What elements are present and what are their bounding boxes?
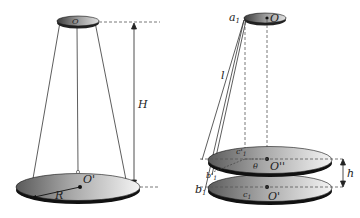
top-disk-center-label: O: [72, 17, 79, 26]
upper-disk: O'' c'1 θ: [208, 147, 332, 178]
right-top-disk: O: [244, 12, 286, 26]
left-figure: O H O' R: [16, 16, 160, 204]
height-label: H: [137, 98, 148, 111]
angle-theta-label: θ: [253, 162, 258, 171]
bottom-disk-center-label: O': [83, 173, 95, 186]
radius-label: R: [54, 189, 63, 202]
corner-label-a1: a1: [229, 11, 240, 25]
physics-diagram: O H O' R O a: [0, 0, 360, 218]
bottom-disk: O' R: [16, 170, 140, 204]
gap-label: h: [347, 167, 354, 180]
corner-label-b1: b1: [195, 183, 207, 197]
top-disk: O: [57, 16, 99, 29]
string-length-label: l: [221, 69, 225, 82]
right-figure: O a1 l O' c1 O'' c'1 θ: [195, 11, 354, 205]
lower-disk: O' c1: [208, 175, 332, 206]
point-b1-prime-label: b'1: [206, 171, 217, 181]
right-top-center-label: O: [270, 12, 279, 25]
gap-arrow: [341, 159, 346, 187]
upper-disk-center-label: O'': [270, 160, 285, 173]
lower-disk-center-label: O': [268, 190, 280, 203]
height-arrow: [132, 23, 137, 186]
suspension-strings: [30, 22, 128, 196]
